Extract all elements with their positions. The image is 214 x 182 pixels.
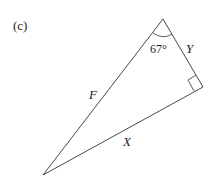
right-angle-marker — [188, 75, 196, 91]
side-label-x: X — [122, 134, 132, 149]
angle-arc — [153, 33, 172, 37]
right-triangle — [43, 19, 203, 175]
side-label-f: F — [88, 87, 98, 102]
angle-label: 67° — [150, 42, 167, 56]
part-label: (c) — [13, 18, 27, 33]
side-label-y: Y — [186, 41, 195, 56]
triangle-diagram: (c) 67° Y F X — [0, 0, 214, 182]
